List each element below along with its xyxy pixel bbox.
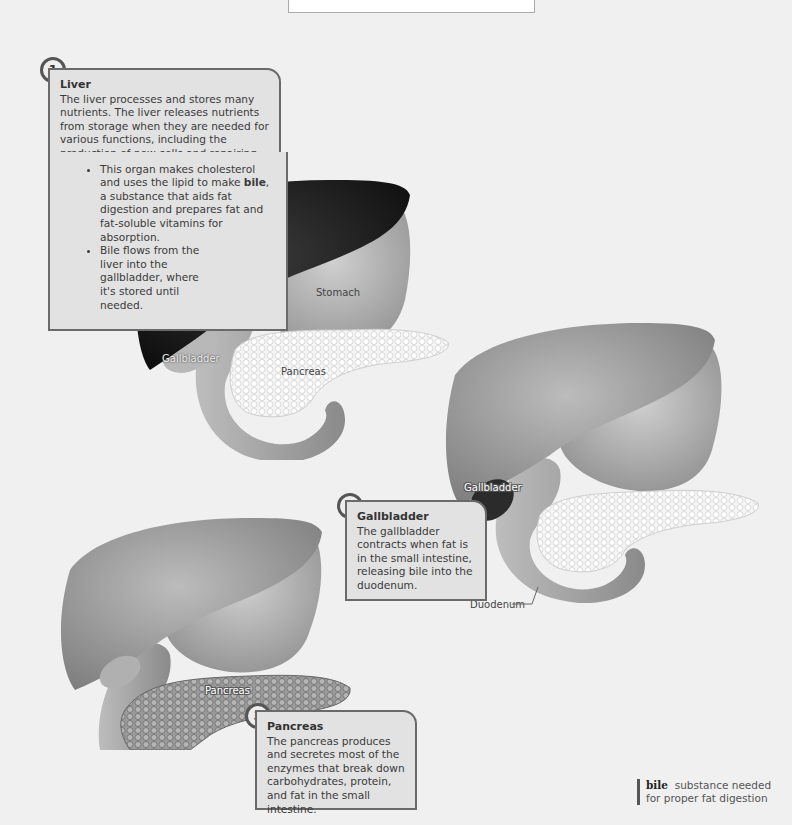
- label-pancreas-1: Pancreas: [281, 366, 326, 377]
- duodenum-leader-line: [512, 585, 542, 607]
- label-pancreas-3: Pancreas: [205, 685, 250, 696]
- label-gallbladder-1: Gallbladder: [162, 353, 220, 364]
- label-gallbladder-2: Gallbladder: [464, 482, 522, 493]
- glossary-entry: bile substance needed for proper fat dig…: [637, 779, 771, 805]
- glossary-definition-2: for proper fat digestion: [646, 792, 771, 805]
- callout-pancreas-heading: Pancreas: [267, 720, 407, 734]
- glossary-definition-1: substance needed: [675, 779, 771, 791]
- section-title: and Pancreas: [289, 0, 534, 2]
- callout-liver-bullet-1: This organ makes cholesterol and uses th…: [100, 163, 278, 245]
- callout-gallbladder-heading: Gallbladder: [357, 510, 477, 524]
- diagram-gallbladder-highlighted: [440, 315, 770, 605]
- callout-liver-bullet-2: Bile flows from the liver into the gallb…: [100, 244, 210, 312]
- glossary-term: bile: [646, 779, 668, 791]
- callout-gallbladder: Gallbladder The gallbladder contracts wh…: [345, 500, 487, 601]
- callout-pancreas-text: The pancreas produces and secretes most …: [267, 735, 407, 817]
- callout-liver-list: This organ makes cholesterol and uses th…: [48, 152, 288, 331]
- callout-gallbladder-text: The gallbladder contracts when fat is in…: [357, 525, 477, 593]
- callout-pancreas: Pancreas The pancreas produces and secre…: [255, 710, 417, 810]
- label-stomach: Stomach: [316, 287, 360, 298]
- section-title-box: and Pancreas: [288, 0, 535, 13]
